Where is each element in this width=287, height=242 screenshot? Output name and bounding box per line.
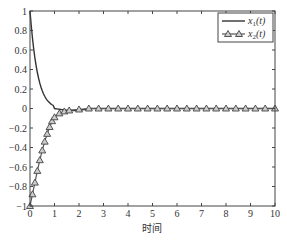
triangle-marker-icon: [39, 147, 46, 153]
triangle-marker-icon: [31, 179, 38, 185]
series-x2-line: [30, 109, 275, 207]
legend: x1(t)x2(t): [218, 13, 273, 42]
x-tick-label: 4: [126, 208, 131, 219]
triangle-marker-icon: [41, 138, 48, 144]
x-tick-label: 2: [77, 208, 82, 219]
x-tick-label: 5: [150, 208, 155, 219]
x-axis-label: 时间: [142, 222, 162, 234]
triangle-marker-icon: [44, 130, 51, 136]
y-tick-label: −1: [16, 201, 27, 212]
triangle-marker-icon: [36, 157, 43, 163]
y-tick-label: 1: [22, 6, 27, 17]
x-tick-label: 10: [270, 208, 280, 219]
x-tick-label: 7: [199, 208, 204, 219]
triangle-marker-icon: [46, 124, 53, 130]
y-tick-label: 0.2: [15, 84, 28, 95]
x-tick-label: 1: [52, 208, 57, 219]
y-tick-label: 0.6: [15, 45, 28, 56]
y-tick-label: 0: [22, 103, 27, 114]
y-tick-label: 0.8: [15, 25, 28, 36]
x-tick-label: 6: [175, 208, 180, 219]
x-tick-label: 9: [248, 208, 253, 219]
y-tick-label: −0.6: [9, 162, 27, 173]
y-tick-label: −0.4: [9, 142, 27, 153]
x-tick-label: 3: [101, 208, 106, 219]
y-tick-label: −0.2: [9, 123, 27, 134]
triangle-marker-icon: [34, 167, 41, 173]
x-tick-label: 8: [224, 208, 229, 219]
y-tick-label: 0.4: [15, 64, 28, 75]
line-chart: 012345678910−1−0.8−0.6−0.4−0.200.20.40.6…: [0, 0, 287, 242]
x-tick-label: 0: [28, 208, 33, 219]
y-tick-label: −0.8: [9, 181, 27, 192]
